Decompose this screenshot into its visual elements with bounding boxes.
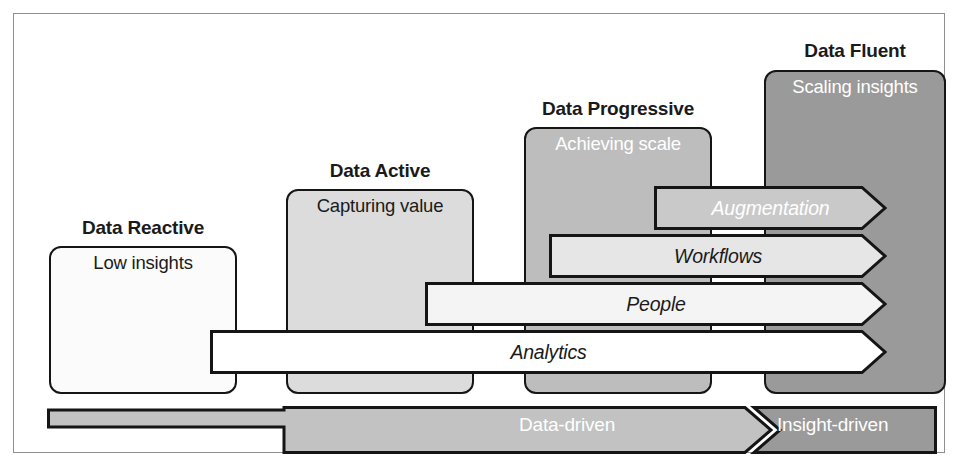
capability-arrow-people: People (425, 282, 887, 326)
stage-subtitle-data-progressive: Achieving scale (524, 133, 712, 155)
capability-label-augmentation: Augmentation (712, 197, 830, 220)
capability-label-workflows: Workflows (674, 245, 762, 268)
stage-title-data-active: Data Active (286, 160, 474, 182)
capability-arrow-analytics: Analytics (210, 330, 887, 374)
stage-title-data-progressive: Data Progressive (500, 98, 736, 120)
stage-title-data-fluent: Data Fluent (764, 40, 946, 62)
figure-frame: Low insights Capturing value Achieving s… (13, 13, 945, 453)
stage-subtitle-data-reactive: Low insights (49, 252, 237, 274)
driven-segment-data-driven (49, 408, 772, 453)
driven-label-data-driven: Data-driven (519, 414, 615, 436)
stage-subtitle-data-active: Capturing value (286, 195, 474, 217)
capability-label-analytics: Analytics (510, 341, 586, 364)
figure-root: Low insights Capturing value Achieving s… (0, 0, 961, 466)
stage-subtitle-data-fluent: Scaling insights (764, 76, 946, 98)
capability-label-people: People (626, 293, 686, 316)
capability-arrow-augmentation: Augmentation (654, 186, 887, 230)
capability-arrow-workflows: Workflows (549, 234, 887, 278)
stage-title-data-reactive: Data Reactive (49, 217, 237, 239)
driven-label-insight-driven: Insight-driven (777, 414, 888, 436)
